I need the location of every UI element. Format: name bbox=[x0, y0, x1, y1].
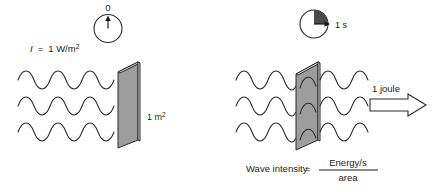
wave-intensity-figure: 0 I=1 W/m2 1 m2 bbox=[0, 0, 432, 192]
caption-equals: = bbox=[305, 163, 311, 174]
intensity-exponent: 2 bbox=[76, 43, 80, 50]
intensity-value: 1 W/m bbox=[48, 43, 76, 54]
left-slab bbox=[118, 62, 140, 148]
figure-canvas: 0 I=1 W/m2 1 m2 bbox=[0, 0, 432, 192]
caption-denominator: area bbox=[338, 172, 358, 183]
left-slab-side-edge bbox=[138, 62, 140, 141]
caption-lead: Wave intensity bbox=[246, 163, 308, 174]
left-clock-label: 0 bbox=[105, 2, 110, 13]
right-slab-front-face bbox=[296, 62, 318, 150]
caption: Wave intensity = Energy/s area bbox=[246, 157, 378, 183]
left-wave-row-1 bbox=[18, 71, 114, 89]
area-label: 1 m2 bbox=[147, 111, 166, 123]
left-wave-row-2 bbox=[18, 97, 114, 115]
intensity-symbol: I bbox=[30, 43, 33, 54]
right-clock-label: 1 s bbox=[335, 20, 348, 30]
right-panel: 1 s bbox=[236, 10, 426, 150]
right-slab bbox=[296, 62, 320, 150]
energy-flow-arrow bbox=[370, 94, 426, 116]
right-wave-group-outgoing bbox=[320, 71, 368, 141]
right-clock: 1 s bbox=[300, 10, 348, 38]
right-wave-out-row-1 bbox=[320, 71, 368, 89]
left-panel: 0 I=1 W/m2 1 m2 bbox=[18, 2, 166, 148]
left-clock: 0 bbox=[94, 2, 122, 43]
right-wave-group-incoming bbox=[236, 71, 296, 142]
area-exponent: 2 bbox=[162, 111, 166, 118]
caption-numerator: Energy/s bbox=[329, 157, 367, 168]
right-clock-elapsed-wedge bbox=[314, 10, 328, 24]
right-wave-out-row-3 bbox=[320, 123, 368, 141]
right-wave-in-row-2 bbox=[236, 97, 296, 116]
left-slab-front-face bbox=[118, 62, 138, 148]
left-wave-row-3 bbox=[18, 123, 114, 141]
area-value: 1 m bbox=[147, 112, 162, 122]
energy-label: 1 joule bbox=[372, 83, 400, 94]
left-wave-group bbox=[18, 71, 114, 141]
right-wave-out-row-2 bbox=[320, 97, 368, 115]
right-wave-in-row-3 bbox=[236, 123, 296, 142]
intensity-label: I=1 W/m2 bbox=[30, 43, 80, 55]
right-wave-in-row-1 bbox=[236, 71, 296, 90]
right-slab-side-edge bbox=[318, 62, 320, 141]
intensity-equals: = bbox=[38, 43, 44, 54]
